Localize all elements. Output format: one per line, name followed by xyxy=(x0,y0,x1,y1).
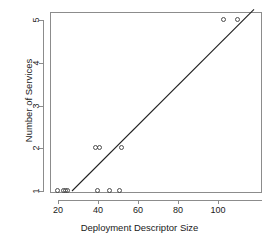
data-point xyxy=(107,188,112,193)
data-point xyxy=(235,17,240,22)
x-tick xyxy=(218,200,219,204)
x-tick-label: 60 xyxy=(123,205,153,215)
data-point xyxy=(117,188,122,193)
y-tick-label: 1 xyxy=(26,186,38,196)
x-tick xyxy=(98,200,99,204)
data-point xyxy=(95,188,100,193)
x-tick xyxy=(58,200,59,204)
x-tick xyxy=(178,200,179,204)
x-tick-label: 40 xyxy=(83,205,113,215)
scatter-chart: 20406080100 12345 Deployment Descriptor … xyxy=(0,0,279,243)
plot-frame xyxy=(50,12,262,193)
x-axis-label: Deployment Descriptor Size xyxy=(0,222,279,233)
y-axis-label: Number of Services xyxy=(23,21,34,181)
x-tick-label: 100 xyxy=(203,205,233,215)
data-point xyxy=(65,188,70,193)
data-point xyxy=(221,17,226,22)
x-tick-label: 80 xyxy=(163,205,193,215)
x-axis-line xyxy=(58,200,262,201)
x-tick-label: 20 xyxy=(43,205,73,215)
data-point xyxy=(55,188,60,193)
x-tick xyxy=(138,200,139,204)
y-axis-line xyxy=(43,20,44,192)
